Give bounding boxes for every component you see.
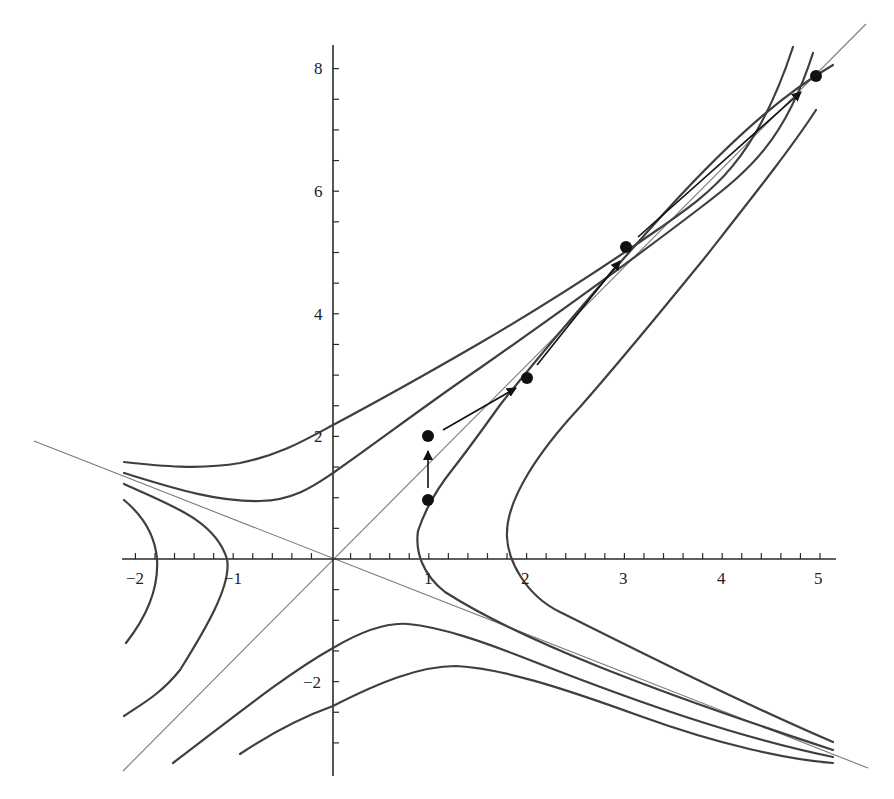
x-tick-label: 1	[424, 569, 433, 588]
point-1-1	[422, 494, 434, 506]
curve-lower-outer	[240, 666, 833, 763]
x-ticks	[135, 553, 820, 559]
arrow-2	[443, 388, 516, 430]
y-ticks	[333, 69, 339, 743]
point-3-5	[620, 241, 632, 253]
y-tick-label: 2	[314, 427, 323, 446]
point-2-3	[521, 372, 533, 384]
curve-right-outer	[507, 110, 816, 537]
y-tick-label: 4	[314, 305, 323, 324]
y-tick-label: 8	[314, 59, 323, 78]
x-tick-label: 4	[717, 569, 726, 588]
point-5-8	[810, 70, 822, 82]
y-tick-label: 6	[314, 182, 323, 201]
x-tick-label: −2	[126, 569, 144, 588]
hyperbola-plot: −2 −1 1 2 3 4 5 8 6 4 2 −2	[0, 0, 894, 799]
arrow-3	[537, 261, 620, 365]
x-tick-label: 3	[619, 569, 628, 588]
y-tick-label: −2	[303, 673, 321, 692]
curve-right-inner	[418, 65, 833, 531]
x-tick-label: −1	[224, 569, 242, 588]
x-tick-label: 5	[814, 569, 823, 588]
curve-upper-inner	[124, 53, 813, 501]
point-1-2	[422, 430, 434, 442]
curve-upper-outer	[124, 47, 793, 467]
curve-lower-inner	[173, 624, 833, 763]
x-tick-label: 2	[521, 569, 530, 588]
